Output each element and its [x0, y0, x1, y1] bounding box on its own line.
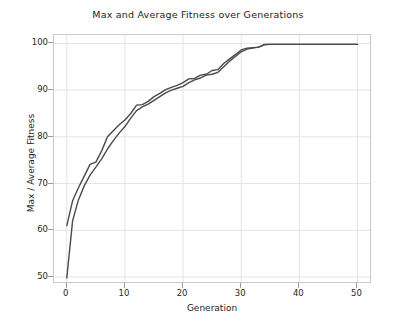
y-tick-label: 50: [8, 271, 48, 281]
x-tick-mark: [298, 283, 299, 288]
plot-area: [53, 34, 371, 283]
y-tick-label: 70: [8, 178, 48, 188]
x-tick-label: 10: [104, 288, 144, 298]
x-tick-label: 30: [220, 288, 260, 298]
x-tick-label: 40: [278, 288, 318, 298]
series-line-max-fitness: [67, 44, 358, 225]
x-tick-mark: [66, 283, 67, 288]
y-tick-label: 90: [8, 84, 48, 94]
x-tick-label: 50: [336, 288, 376, 298]
x-tick-mark: [240, 283, 241, 288]
x-tick-label: 20: [162, 288, 202, 298]
y-tick-label: 80: [8, 131, 48, 141]
plot-svg: [54, 35, 371, 283]
y-tick-label: 60: [8, 224, 48, 234]
x-axis-label: Generation: [53, 303, 371, 313]
chart-title: Max and Average Fitness over Generations: [0, 9, 396, 20]
x-tick-mark: [356, 283, 357, 288]
y-tick-label: 100: [8, 37, 48, 47]
x-tick-label: 0: [46, 288, 86, 298]
x-tick-mark: [182, 283, 183, 288]
y-axis-label: Max / Average Fitness: [26, 88, 36, 238]
chart-figure: Max and Average Fitness over Generations…: [0, 0, 396, 330]
x-tick-mark: [124, 283, 125, 288]
series-line-average-fitness: [67, 44, 358, 278]
data-lines: [67, 44, 358, 278]
